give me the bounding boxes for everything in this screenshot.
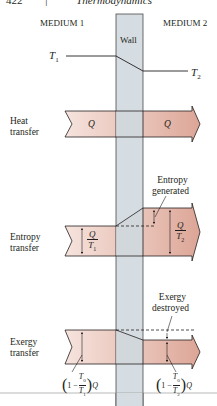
- exergy-transfer-label: Exergy transfer: [10, 337, 39, 359]
- entropy-transfer-label: Entropy transfer: [10, 232, 41, 254]
- heat-transfer-label: Heat transfer: [10, 116, 39, 138]
- heat-left-value: Q: [88, 119, 95, 130]
- t2-label: T2: [191, 67, 201, 83]
- wall-label: Wall: [120, 35, 137, 46]
- entropy-generated-label: Entropy generated: [156, 175, 189, 197]
- heat-transfer-arrow: [65, 106, 200, 142]
- medium-2-label: MEDIUM 2: [163, 18, 207, 29]
- exergy-left-expression: ( 1 − T0 T1 ) Q: [62, 372, 98, 398]
- entropy-left-fraction: Q T1: [87, 229, 98, 254]
- entropy-right-fraction: Q T2: [175, 220, 186, 245]
- exergy-destroyed-label: Exergy destroyed: [156, 292, 189, 314]
- t1-label: T1: [49, 50, 59, 66]
- heat-right-value: Q: [164, 119, 171, 130]
- exergy-right-expression: ( 1 − T0 T2 ) Q: [156, 372, 192, 398]
- medium-1-label: MEDIUM 1: [40, 18, 84, 29]
